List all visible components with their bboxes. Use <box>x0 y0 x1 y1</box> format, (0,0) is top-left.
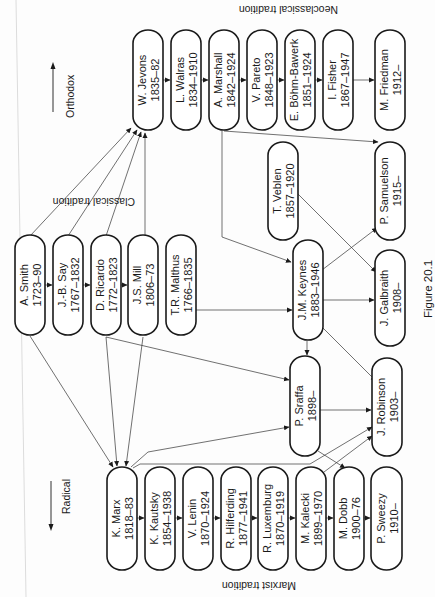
node-hilferding: R. Hilferding1877–1941 <box>221 467 251 570</box>
node-name: K. Kautsky <box>148 492 160 545</box>
node-label: V. Pareto1848–1923 <box>250 52 275 107</box>
node-label: A. Smith1723–90 <box>18 264 43 307</box>
node-name: J.M. Keynes <box>296 259 308 320</box>
node-name: P. Sraffa <box>293 385 305 427</box>
node-years: 1767–1832 <box>69 257 81 312</box>
node-veblen: T. Veblen1857–1920 <box>268 142 298 240</box>
node-name: T. Veblen <box>271 168 283 213</box>
node-years: 1883–1946 <box>309 262 321 317</box>
node-years: 1834–1910 <box>187 52 199 107</box>
node-label: M. Dobb1900–76 <box>337 497 362 540</box>
node-pareto: V. Pareto1848–1923 <box>247 30 277 130</box>
node-walras: L. Walras1834–1910 <box>171 30 201 130</box>
node-label: W. Jevons1835–82 <box>136 54 161 105</box>
node-name: M. Friedman <box>378 49 390 111</box>
edge-ricardo-marx <box>106 337 117 466</box>
node-label: D. Ricardo1772–1823 <box>94 257 119 312</box>
edge-marshall-samuelson <box>224 131 378 142</box>
node-label: R. Luxemburg1870–1919 <box>261 484 286 553</box>
edge-keynes-samuelson <box>322 228 377 270</box>
node-say: J.-B. Say1767–1832 <box>53 235 83 335</box>
node-galbraith: J. Galbraith1908– <box>375 250 405 346</box>
node-kalecki: M. Kalecki1899–1970 <box>296 467 326 570</box>
node-mill: J.S. Mill1806–73 <box>128 235 158 335</box>
node-ricardo: D. Ricardo1772–1823 <box>91 235 121 335</box>
node-name: R. Luxemburg <box>261 484 273 553</box>
edge-smith-marx <box>30 336 113 467</box>
node-years: 1870–1924 <box>199 491 211 546</box>
node-smith: A. Smith1723–90 <box>15 235 45 335</box>
node-label: J.-B. Say1767–1832 <box>56 257 81 312</box>
node-name: R. Hilferding <box>224 488 236 549</box>
node-marx: K. Marx1818–83 <box>107 467 137 570</box>
node-label: T.R. Malthus1766–1835 <box>169 254 194 316</box>
edge-keynes-robinson <box>320 325 376 381</box>
node-years: 1908– <box>391 282 403 313</box>
node-keynes: J.M. Keynes1883–1946 <box>293 240 323 340</box>
edge-mill-marx <box>126 337 143 466</box>
edge-ricardo-jevons <box>106 132 141 236</box>
node-name: L. Walras <box>174 56 186 103</box>
node-sraffa: P. Sraffa1898– <box>290 356 320 456</box>
node-friedman: M. Friedman1912– <box>375 30 405 130</box>
node-years: 1835–82 <box>149 59 161 102</box>
node-label: J.M. Keynes1883–1946 <box>296 259 321 320</box>
node-name: A. Marshall <box>212 52 224 107</box>
node-sweezy: P. Sweezy1910– <box>371 467 402 570</box>
node-years: 1818–83 <box>123 497 135 540</box>
node-years: 1766–1835 <box>182 257 194 312</box>
node-fisher: I. Fisher1867–1947 <box>323 30 353 130</box>
node-name: P. Sweezy <box>375 493 387 544</box>
node-label: M. Kalecki1899–1970 <box>299 491 324 546</box>
node-years: 1898– <box>306 390 318 421</box>
node-dobb: M. Dobb1900–76 <box>334 467 364 570</box>
node-label: I. Fisher1867–1947 <box>326 52 351 107</box>
node-years: 1867–1947 <box>339 52 351 107</box>
node-name: K. Marx <box>110 499 122 537</box>
radical-indicator: Radical <box>49 479 73 531</box>
node-years: 1915– <box>391 175 403 206</box>
node-label: A. Marshall1842–1924 <box>212 52 237 107</box>
node-years: 1900–76 <box>350 497 362 540</box>
node-years: 1912– <box>391 64 403 95</box>
node-marshall: A. Marshall1842–1924 <box>209 30 239 130</box>
node-years: 1848–1923 <box>263 52 275 107</box>
node-name: V. Lenin <box>186 499 198 538</box>
node-name: J.S. Mill <box>131 266 143 305</box>
orthodox-indicator: Orthodox <box>51 62 77 118</box>
figure-caption: Figure 20.1 <box>422 260 434 318</box>
edge-say-jevons <box>68 130 137 236</box>
node-label: L. Walras1834–1910 <box>174 52 199 107</box>
node-name: E. Böhm-Bawerk <box>288 38 300 121</box>
node-years: 1910– <box>388 502 400 533</box>
node-name: I. Fisher <box>326 60 338 100</box>
node-label: J.S. Mill1806–73 <box>131 264 156 307</box>
node-lenin: V. Lenin1870–1924 <box>183 467 213 570</box>
node-name: V. Pareto <box>250 58 262 103</box>
node-name: M. Dobb <box>337 498 349 540</box>
node-name: J. Robinson <box>375 378 387 436</box>
node-robinson: J. Robinson1903– <box>372 358 402 456</box>
node-name: A. Smith <box>18 264 30 306</box>
node-years: 1854–1938 <box>161 491 173 546</box>
node-years: 1899–1970 <box>312 491 324 546</box>
node-label: R. Hilferding1877–1941 <box>224 488 249 549</box>
node-label: K. Kautsky1854–1938 <box>148 491 173 546</box>
edge-ricardo-sraffa <box>106 337 289 380</box>
node-name: M. Kalecki <box>299 493 311 544</box>
node-name: J.-B. Say <box>56 262 68 307</box>
node-name: J. Galbraith <box>378 270 390 326</box>
node-years: 1806–73 <box>144 264 156 307</box>
lineage-diagram: A. Smith1723–90J.-B. Say1767–1832D. Rica… <box>0 0 435 597</box>
classical-tradition-label: Classical tradition <box>53 196 135 208</box>
neoclassical-tradition-label: Neoclassical tradition <box>239 4 338 16</box>
node-name: P. Samuelson <box>378 157 390 224</box>
node-label: T. Veblen1857–1920 <box>271 163 296 218</box>
node-malthus: T.R. Malthus1766–1835 <box>166 235 196 335</box>
node-name: T.R. Malthus <box>169 254 181 316</box>
node-bohm: E. Böhm-Bawerk1851–1924 <box>285 30 315 130</box>
node-years: 1851–1924 <box>301 52 313 107</box>
node-years: 1723–90 <box>31 264 43 307</box>
arrow-down-icon <box>49 524 54 531</box>
marxist-tradition-label: Marxist tradition <box>222 580 296 592</box>
